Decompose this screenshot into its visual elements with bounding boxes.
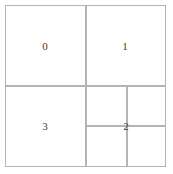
partition-subcell-bottom-right[interactable] bbox=[127, 126, 166, 167]
partition-subcell-top-left[interactable] bbox=[86, 86, 127, 126]
partition-cell-0[interactable] bbox=[5, 5, 86, 86]
partition-cell-3[interactable] bbox=[5, 86, 86, 167]
partition-subcell-top-right[interactable] bbox=[127, 86, 166, 126]
rectangle-partition-diagram: 0 1 3 2 bbox=[0, 0, 173, 174]
partition-cell-1[interactable] bbox=[86, 5, 166, 86]
partition-subcell-bottom-left[interactable] bbox=[86, 126, 127, 167]
